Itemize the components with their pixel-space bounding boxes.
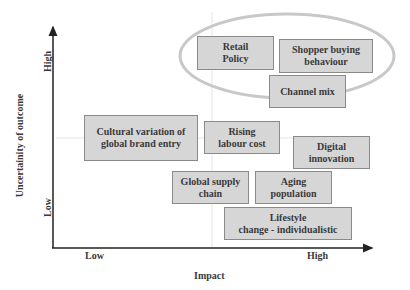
item-lifestyle-change: Lifestyle change - individualistic (224, 207, 352, 240)
item-channel-mix: Channel mix (269, 75, 346, 108)
y-axis-title: Uncertainity of outcome (14, 81, 25, 211)
item-digital-innovation: Digital innovation (293, 136, 370, 169)
item-global-supply-chain: Global supply chain (172, 171, 249, 204)
item-retail-policy: Retail Policy (197, 36, 274, 70)
x-axis-high-label: High (307, 250, 328, 261)
x-axis-title: Impact (194, 270, 225, 281)
impact-uncertainty-matrix: Retail Policy Shopper buying behaviour C… (0, 0, 410, 290)
item-rising-labour-cost: Rising labour cost (204, 121, 280, 154)
item-cultural-variation: Cultural variation of global brand entry (84, 115, 198, 161)
x-axis-low-label: Low (85, 250, 104, 261)
item-aging-population: Aging population (255, 171, 332, 204)
y-axis-high-label: High (42, 47, 53, 77)
y-axis-low-label: Low (42, 193, 53, 223)
item-shopper-buying-behaviour: Shopper buying behaviour (279, 39, 373, 73)
